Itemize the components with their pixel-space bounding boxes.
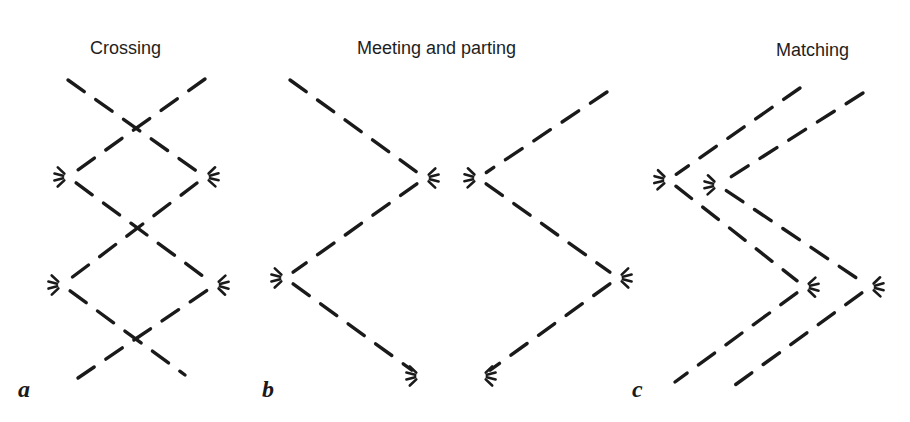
path-dash — [763, 353, 779, 365]
path-dash — [781, 293, 797, 305]
path-dash — [756, 107, 772, 119]
path-dash — [594, 284, 610, 296]
whisker-stroke — [487, 377, 496, 379]
path-dash — [401, 184, 417, 196]
whisker-stroke — [465, 174, 474, 176]
path-dash — [736, 373, 752, 385]
whisker-stroke — [430, 179, 439, 181]
turn-whisker-icon — [622, 268, 632, 287]
whisker-stroke — [219, 276, 226, 282]
path-dash — [68, 80, 84, 92]
path-dash — [293, 263, 306, 272]
path-dash — [321, 304, 337, 316]
path-dash — [345, 223, 361, 235]
whisker-stroke — [468, 181, 475, 187]
path-dash — [755, 210, 772, 221]
path-dash — [151, 139, 167, 151]
whisker-stroke — [655, 176, 664, 178]
path-dash — [100, 245, 116, 257]
path-dash — [506, 149, 523, 160]
whisker-stroke — [209, 180, 216, 186]
path-dash — [158, 243, 174, 255]
path-dash — [756, 249, 772, 261]
path-dash — [373, 204, 389, 216]
whisker-stroke — [623, 279, 632, 281]
path-dash — [539, 324, 555, 336]
path-dash — [514, 204, 530, 216]
path-dash — [562, 111, 579, 122]
whisker-stroke — [55, 174, 64, 176]
path-dash — [181, 183, 197, 195]
whisker-stroke — [875, 288, 884, 290]
turn-whisker-icon — [406, 367, 416, 386]
path-dash — [511, 344, 527, 356]
whisker-stroke — [429, 181, 436, 187]
path-dash — [293, 284, 309, 296]
whisker-stroke — [210, 173, 219, 175]
path-dash — [542, 223, 558, 235]
path-dash — [783, 270, 797, 281]
whisker-stroke — [809, 291, 816, 297]
whisker-stroke — [220, 286, 229, 288]
path-dash — [846, 93, 863, 104]
path-dash — [698, 353, 714, 365]
whisker-stroke — [874, 277, 881, 283]
whisker-stroke — [705, 181, 714, 183]
path-dash — [376, 344, 392, 356]
whisker-stroke — [704, 186, 713, 188]
path-dash — [134, 329, 151, 340]
whisker-stroke — [406, 373, 415, 375]
path-dash — [730, 228, 746, 240]
whisker-stroke — [49, 286, 58, 288]
turn-whisker-icon — [464, 168, 474, 187]
path-dash — [566, 304, 582, 316]
whisker-stroke — [52, 288, 59, 294]
path-dash — [78, 367, 94, 378]
path-dash — [162, 310, 179, 321]
turn-whisker-icon — [54, 167, 64, 186]
path-dash — [106, 138, 122, 150]
whisker-stroke — [810, 288, 819, 290]
path-dash — [96, 100, 112, 112]
panel-b-path-2 — [464, 92, 631, 386]
path-dash — [78, 158, 94, 170]
panel-b-path-1 — [271, 80, 438, 386]
path-dash — [290, 80, 306, 92]
whisker-stroke — [406, 377, 415, 379]
path-dash — [348, 324, 364, 336]
whisker-stroke — [487, 373, 496, 375]
whisker-stroke — [809, 278, 816, 284]
turn-whisker-icon — [48, 276, 58, 295]
whisker-stroke — [271, 275, 280, 277]
whisker-stroke — [708, 175, 715, 181]
path-dash — [486, 184, 502, 196]
path-dash — [846, 293, 862, 305]
path-dash — [190, 291, 207, 302]
whisker-stroke — [658, 183, 665, 189]
whisker-stroke — [54, 178, 63, 180]
path-dash — [590, 92, 607, 103]
path-dash — [98, 311, 114, 323]
turn-whisker-icon — [809, 278, 819, 297]
path-dash — [791, 333, 807, 345]
path-dash — [133, 119, 149, 131]
path-dash — [189, 79, 205, 91]
whisker-stroke — [486, 379, 493, 385]
turn-whisker-icon — [704, 175, 714, 194]
whisker-stroke — [875, 283, 884, 285]
whisker-stroke — [810, 284, 819, 286]
path-dash — [818, 313, 834, 325]
path-dash — [318, 100, 334, 112]
path-dash — [728, 127, 744, 138]
figure-canvas — [0, 0, 910, 422]
panel-b-meeting-and-parting — [271, 80, 631, 386]
whisker-stroke — [622, 268, 629, 274]
whisker-stroke — [275, 268, 282, 274]
path-dash — [675, 373, 687, 382]
path-dash — [784, 88, 800, 99]
whisker-stroke — [410, 379, 417, 385]
path-dash — [179, 159, 195, 171]
path-dash — [106, 348, 123, 359]
path-dash — [760, 148, 777, 159]
panel-a-path-2 — [54, 79, 228, 378]
